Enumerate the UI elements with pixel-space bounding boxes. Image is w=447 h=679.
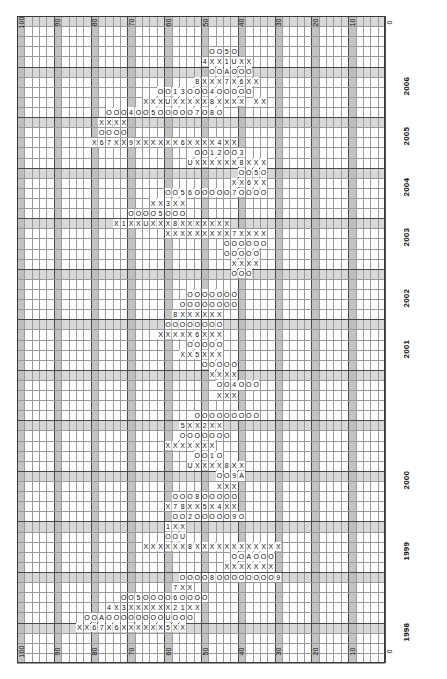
y-axis-tick-label: 1999: [402, 530, 411, 560]
stitch-cell: O: [238, 573, 244, 582]
stitch-cell: O: [231, 148, 237, 157]
stitch-cell: 8: [194, 77, 200, 86]
stitch-cell: O: [216, 492, 222, 501]
stitch-cell: O: [209, 300, 215, 309]
stitch-cell: X: [209, 461, 215, 470]
stitch-cell: X: [172, 623, 178, 632]
stitch-cell: O: [224, 360, 230, 369]
stitch-cell: X: [194, 441, 200, 450]
stitch-cell: X: [150, 542, 156, 551]
x-axis-tick-label-bottom: 50: [201, 642, 208, 662]
stitch-cell: X: [135, 138, 141, 147]
stitch-cell: O: [231, 573, 237, 582]
stitch-cell: O: [179, 613, 185, 622]
stitch-cell: X: [179, 522, 185, 531]
stitch-cell: O: [194, 300, 200, 309]
stitch-cell: O: [202, 107, 208, 116]
x-axis-tick-label-top: 100: [17, 13, 24, 33]
stitch-cell: U: [187, 158, 193, 167]
stitch-cell: O: [253, 239, 259, 248]
stitch-cell: X: [172, 441, 178, 450]
x-axis-tick-label-bottom: 70: [128, 642, 135, 662]
x-axis-tick-label-top: 10: [348, 13, 355, 33]
stitch-cell: X: [231, 502, 237, 511]
stitch-cell: X: [187, 219, 193, 228]
stitch-cell: X: [76, 623, 82, 632]
stitch-cell: 7: [231, 229, 237, 238]
stitch-cell: X: [260, 562, 266, 571]
stitch-cell: X: [157, 603, 163, 612]
stitch-cell: X: [253, 77, 259, 86]
stitch-cell: 9: [231, 471, 237, 480]
stitch-cell: X: [260, 229, 266, 238]
grid-line-horizontal: [17, 249, 385, 250]
stitch-cell: X: [202, 158, 208, 167]
stitch-cell: X: [202, 97, 208, 106]
stitch-cell: O: [246, 380, 252, 389]
stitch-cell: X: [224, 229, 230, 238]
y-axis-tick-label: 2001: [402, 328, 411, 358]
stitch-cell: O: [194, 512, 200, 521]
stitch-cell: X: [216, 542, 222, 551]
stitch-cell: X: [231, 138, 237, 147]
stitch-cell: O: [238, 552, 244, 561]
stitch-cell: X: [179, 97, 185, 106]
stitch-cell: O: [150, 613, 156, 622]
stitch-cell: O: [179, 431, 185, 440]
stitch-cell: O: [194, 188, 200, 197]
stitch-cell: O: [268, 552, 274, 561]
stitch-cell: X: [187, 502, 193, 511]
stitch-cell: O: [231, 492, 237, 501]
stitch-cell: 7: [172, 583, 178, 592]
stitch-cell: 4: [231, 380, 237, 389]
stitch-cell: X: [150, 603, 156, 612]
stitch-cell: X: [194, 461, 200, 470]
stitch-cell: X: [128, 623, 134, 632]
stitch-cell: O: [246, 168, 252, 177]
grid-line-horizontal: [17, 623, 385, 624]
stitch-cell: O: [172, 188, 178, 197]
stitch-cell: 8: [172, 310, 178, 319]
stitch-cell: X: [231, 461, 237, 470]
x-axis-tick-label-top: 70: [128, 13, 135, 33]
stitch-cell: O: [179, 209, 185, 218]
stitch-cell: O: [202, 431, 208, 440]
stitch-cell: X: [179, 198, 185, 207]
stitch-cell: O: [202, 300, 208, 309]
stitch-cell: X: [143, 603, 149, 612]
x-axis-tick-label-bottom: 100: [17, 642, 24, 662]
stitch-cell: O: [202, 451, 208, 460]
stitch-cell: O: [179, 300, 185, 309]
stitch-cell: O: [202, 360, 208, 369]
stitch-cell: O: [246, 188, 252, 197]
stitch-cell: X: [209, 502, 215, 511]
stitch-cell: O: [179, 492, 185, 501]
stitch-cell: O: [224, 148, 230, 157]
stitch-cell: X: [121, 138, 127, 147]
stitch-cell: O: [260, 552, 266, 561]
stitch-cell: O: [143, 613, 149, 622]
stitch-cell: O: [224, 512, 230, 521]
stitch-cell: X: [194, 138, 200, 147]
stitch-cell: 5: [202, 502, 208, 511]
stitch-cell: X: [246, 259, 252, 268]
stitch-cell: O: [246, 87, 252, 96]
stitch-cell: O: [231, 87, 237, 96]
grid-line-horizontal: [17, 532, 385, 533]
x-axis-tick-label-bottom: 90: [54, 642, 61, 662]
x-axis-tick-label-top: 90: [54, 13, 61, 33]
stitch-cell: O: [202, 411, 208, 420]
stitch-cell: O: [224, 188, 230, 197]
stitch-cell: O: [187, 289, 193, 298]
stitch-cell: X: [238, 97, 244, 106]
stitch-cell: X: [260, 158, 266, 167]
stitch-cell: X: [231, 158, 237, 167]
pattern-grid[interactable]: OO5O4XX1UXXOOAOOO8XXX7X6XXOO13OOO4OOOOOX…: [17, 16, 385, 663]
stitch-cell: O: [143, 593, 149, 602]
stitch-cell: X: [253, 562, 259, 571]
stitch-cell: O: [253, 552, 259, 561]
stitch-cell: X: [216, 330, 222, 339]
stitch-cell: X: [179, 583, 185, 592]
stitch-cell: O: [172, 613, 178, 622]
y-axis-tick-label: 2002: [402, 278, 411, 308]
